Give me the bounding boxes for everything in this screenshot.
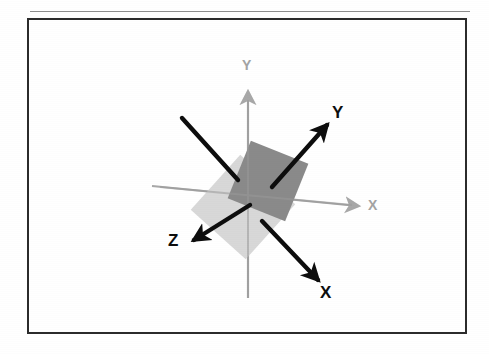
rotated-axis-y-label: Y (332, 104, 343, 121)
coordinate-system-diagram (0, 0, 489, 354)
original-axis-x-label: X (368, 198, 377, 212)
rotated-axis-x-line (262, 221, 318, 280)
figure-page: Y X Z X Y (0, 0, 489, 354)
rotated-axis-z-label: Z (168, 232, 178, 249)
rotated-axis-x-label: X (320, 284, 331, 301)
original-axis-y-label: Y (242, 58, 251, 72)
rotated-axis-z-negative-line (182, 118, 238, 180)
